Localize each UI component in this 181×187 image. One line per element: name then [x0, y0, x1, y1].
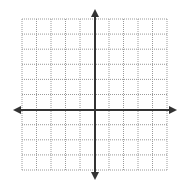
- coordinate-plane: [0, 0, 181, 187]
- background: [0, 0, 181, 187]
